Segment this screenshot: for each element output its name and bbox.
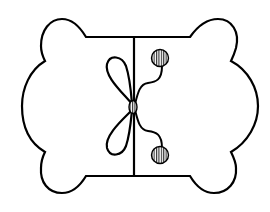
diagram-canvas (0, 0, 270, 212)
upper-hatched-bead (152, 50, 169, 67)
center-knot (129, 101, 137, 114)
lower-hatched-bead (152, 147, 169, 164)
bone-outline (22, 19, 258, 193)
bone-bow-diagram (0, 0, 270, 212)
